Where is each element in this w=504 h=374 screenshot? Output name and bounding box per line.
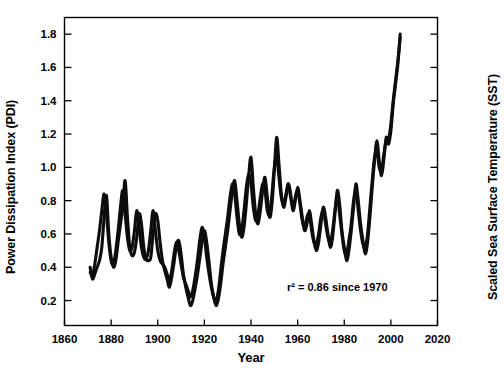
x-axis-ticks: 186018801900192019401960198020002020 xyxy=(52,320,451,345)
x-tick-label: 1920 xyxy=(192,333,218,345)
chart-figure: Power Dissipation Index (PDI) Scaled Sea… xyxy=(0,0,504,374)
y-tick-label: 1.2 xyxy=(41,128,57,140)
x-tick-label: 1900 xyxy=(145,333,171,345)
y-tick-label: 0.6 xyxy=(41,228,57,240)
data-series-group xyxy=(90,34,400,305)
x-tick-label: 1980 xyxy=(331,333,357,345)
x-tick-label: 1860 xyxy=(52,333,78,345)
x-tick-label: 1940 xyxy=(238,333,264,345)
y-tick-label: 0.2 xyxy=(41,295,57,307)
series-line-1 xyxy=(90,37,400,300)
x-tick-label: 1880 xyxy=(98,333,124,345)
x-tick-label: 1960 xyxy=(285,333,311,345)
y-tick-label: 1.0 xyxy=(41,161,57,173)
y-tick-label: 1.8 xyxy=(41,28,58,40)
y-tick-label: 1.4 xyxy=(41,95,58,107)
y-tick-label: 1.6 xyxy=(41,61,57,73)
x-tick-label: 2000 xyxy=(378,333,404,345)
series-line-0 xyxy=(90,34,400,305)
plot-area: 186018801900192019401960198020002020 0.2… xyxy=(0,0,504,374)
y-tick-label: 0.8 xyxy=(41,195,58,207)
y-axis-right-ticks xyxy=(431,34,438,300)
x-tick-label: 2020 xyxy=(425,333,451,345)
r-squared-annotation: r² = 0.86 since 1970 xyxy=(287,281,388,293)
y-tick-label: 0.4 xyxy=(41,261,58,273)
y-axis-left-ticks: 0.20.40.60.81.01.21.41.61.8 xyxy=(41,28,72,306)
